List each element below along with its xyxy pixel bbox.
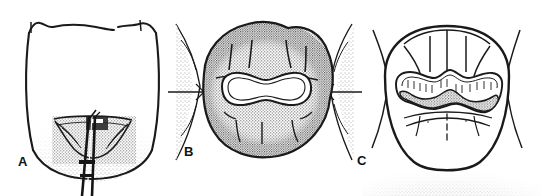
dental-figure: A B C: [0, 0, 544, 196]
panel-c-illustration: [362, 26, 542, 196]
panel-label-b: B: [184, 145, 193, 158]
panel-a-illustration: [20, 20, 170, 196]
figure-illustration: [0, 0, 544, 196]
panel-b-illustration: [168, 16, 362, 166]
panel-label-a: A: [18, 155, 27, 168]
panel-label-c: C: [357, 154, 366, 167]
